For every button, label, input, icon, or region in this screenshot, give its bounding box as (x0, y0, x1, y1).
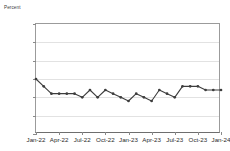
data-point (204, 89, 207, 92)
data-point (181, 85, 184, 88)
x-axis-tick-mark (221, 132, 222, 135)
x-axis-tick-label: Oct-22 (96, 137, 115, 143)
x-axis-tick-label: Jan-22 (27, 137, 46, 143)
series-line (36, 79, 221, 101)
data-point (158, 89, 161, 92)
data-point (42, 85, 45, 88)
data-point (212, 89, 215, 92)
x-axis-tick-label: Oct-23 (189, 137, 208, 143)
data-point (143, 96, 146, 99)
data-point (220, 89, 223, 92)
data-point (50, 92, 53, 95)
data-point (104, 89, 107, 92)
series-unemployment-rate (36, 24, 221, 134)
data-point (73, 92, 76, 95)
data-point (173, 96, 176, 99)
x-axis-tick-label: Jan-23 (119, 137, 138, 143)
data-point (58, 92, 61, 95)
data-point (135, 92, 138, 95)
data-point (89, 89, 92, 92)
data-point (35, 78, 38, 81)
x-axis-tick-label: Apr-22 (50, 137, 69, 143)
y-axis-title: Percent (4, 5, 21, 10)
plot-area: 5.55.04.54.03.53.02.5 Jan-22Apr-22Jul-22… (35, 23, 220, 133)
x-axis-tick-label: Jan-24 (212, 137, 230, 143)
data-point (119, 96, 122, 99)
data-point (189, 85, 192, 88)
x-axis-tick-label: Jul-22 (74, 137, 91, 143)
x-axis-tick-label: Apr-23 (142, 137, 161, 143)
data-point (166, 92, 169, 95)
data-point (81, 96, 84, 99)
data-point (96, 96, 99, 99)
data-point (112, 92, 115, 95)
data-point (65, 92, 68, 95)
unemployment-rate-line-chart: Percent 5.55.04.54.03.53.02.5 Jan-22Apr-… (0, 0, 230, 151)
data-point (127, 100, 130, 103)
data-point (150, 100, 153, 103)
x-axis-tick-label: Jul-23 (166, 137, 183, 143)
data-point (197, 85, 200, 88)
